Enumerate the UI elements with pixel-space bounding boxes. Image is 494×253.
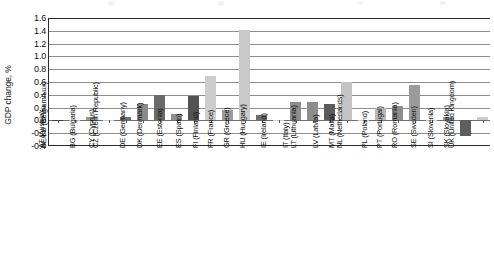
x-tick-label: LT (Lithuania) [303, 148, 320, 248]
plot-area [48, 18, 490, 146]
x-tick-label-text: BG (Bulgaria) [69, 105, 76, 148]
bar-slot [49, 18, 66, 145]
bar-slot [100, 18, 117, 145]
bars-group [49, 18, 490, 145]
y-tick-label: 1.0 [34, 52, 46, 61]
x-tick-label: SK (Slovakia) [456, 148, 473, 248]
x-tick-label-text: DK (Denmark) [136, 103, 143, 148]
x-axis-tick-labels: AT (Austria)BE/LU (Belgium/Lux)BG (Bulga… [48, 148, 490, 251]
bar-slot [457, 18, 474, 145]
scan-artifact [358, 1, 363, 5]
x-tick-label: BG (Bulgaria) [82, 148, 99, 248]
x-tick-label: LV (Latvia) [320, 148, 337, 248]
x-tick-label: IT (Italy) [286, 148, 303, 248]
x-tick-label: RO (Romania) [405, 148, 422, 248]
x-tick-label: EE (Estonia) [167, 148, 184, 248]
x-axis-tickmark [109, 120, 110, 123]
y-tick-label: 0.8 [34, 65, 46, 74]
x-tick-label-text: FI (Finland) [192, 112, 199, 148]
y-tick-label: 1.4 [34, 26, 46, 35]
x-axis-tickmark [58, 120, 59, 123]
x-tick-label-text: DE (Germany) [119, 102, 126, 148]
x-tick-label: SI (Slovenia) [439, 148, 456, 248]
y-axis-title-text: GDP change, % [3, 65, 13, 125]
x-tick-label-text: SI (Slovenia) [427, 108, 434, 148]
x-tick-label-text: BE/LU (Belgium/Lux) [40, 82, 47, 148]
x-tick-label: NL (Netherlands) [354, 148, 371, 248]
x-tick-label-text: GR (Greece) [223, 107, 230, 148]
x-tick-label: IE (Ireland) [269, 148, 286, 248]
x-tick-label: BE/LU (Belgium/Lux) [65, 148, 82, 248]
x-tick-label-text: EE (Estonia) [156, 108, 163, 148]
bar-slot [474, 18, 491, 145]
x-axis-tickmark [466, 120, 467, 123]
x-tick-label: ES (Spain) [184, 148, 201, 248]
y-tick-label: 1.2 [34, 39, 46, 48]
x-tick-label: PL (Poland) [371, 148, 388, 248]
x-tick-label-text: FR (France) [207, 110, 214, 148]
scan-artifact [218, 1, 224, 6]
x-tick-label-text: UK (United Kingdom) [448, 81, 455, 148]
x-tick-label: DK (Denmark) [150, 148, 167, 248]
x-tick-label: CY (Cyprus) [99, 148, 116, 248]
x-tick-label-text: RO (Romania) [391, 102, 398, 148]
x-tick-label: HU (Hungary) [252, 148, 269, 248]
x-axis-tickmark [347, 120, 348, 123]
x-tick-label: FI (Finland) [201, 148, 218, 248]
x-tick-label: FR (France) [218, 148, 235, 248]
x-tick-label: SE (Sweden) [422, 148, 439, 248]
x-tick-label-text: LT (Lithuania) [290, 105, 297, 148]
gdp-change-bar-chart: GDP change, % 1.61.41.21.00.80.60.40.20.… [0, 0, 494, 253]
scan-artifact [108, 1, 115, 6]
scan-artifact [440, 1, 446, 5]
x-tick-label: PT (Portugal) [388, 148, 405, 248]
y-axis-title: GDP change, % [0, 42, 16, 147]
x-tick-label-text: PL (Poland) [361, 111, 368, 148]
y-tick-label: 1.6 [34, 14, 46, 23]
x-axis-tickmark [279, 120, 280, 123]
x-tick-label-text: HU (Hungary) [239, 104, 246, 148]
x-tick-label: UK (United Kingdom) [473, 148, 490, 248]
x-tick-label-text: SE (Sweden) [410, 106, 417, 148]
x-tick-label-text: NL (Netherlands) [336, 94, 343, 148]
x-tick-label-text: CZ (Czech Republic) [92, 82, 99, 148]
x-tick-label: AT (Austria) [48, 148, 65, 248]
x-tick-label-text: ES (Spain) [175, 114, 182, 148]
x-tick-label-text: IE (Ireland) [260, 113, 267, 148]
x-tick-label: MT (Malta) [337, 148, 354, 248]
x-tick-label: GR (Greece) [235, 148, 252, 248]
x-tick-label-text: LV (Latvia) [312, 114, 319, 148]
x-tick-label: DE (Germany) [133, 148, 150, 248]
x-tick-label-text: PT (Portugal) [376, 106, 383, 148]
x-axis-tickmark [483, 120, 484, 123]
x-tick-label: CZ (Czech Republic) [116, 148, 133, 248]
